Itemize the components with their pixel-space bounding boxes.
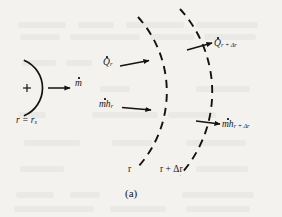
enthalpy-in-arrow	[122, 108, 151, 111]
heat-out-arrow	[187, 43, 212, 50]
enthalpy-in-label: mhr	[99, 100, 113, 110]
figure-canvas: r = rs m Qr mhr Qr + Δr mhr + Δr r r + Δ…	[0, 0, 282, 217]
figure-caption: (a)	[125, 188, 137, 199]
outer-shell-label: r + Δr	[160, 165, 183, 175]
inner-shell-label: r	[128, 165, 131, 175]
enthalpy-out-arrow	[196, 121, 220, 124]
heat-out-label: Qr + Δr	[214, 39, 237, 49]
mass-flow-label: m	[75, 79, 82, 89]
enthalpy-out-label: mhr + Δr	[222, 120, 250, 130]
heat-in-label: Qr	[103, 58, 112, 68]
surface-radius-label: r = rs	[16, 116, 37, 126]
thermodynamic-control-volume-diagram	[0, 0, 282, 217]
heat-in-arrow	[120, 61, 149, 67]
outer-shell-arc	[180, 9, 212, 175]
inner-shell-arc	[138, 17, 167, 167]
plus-sign-icon	[23, 84, 31, 92]
